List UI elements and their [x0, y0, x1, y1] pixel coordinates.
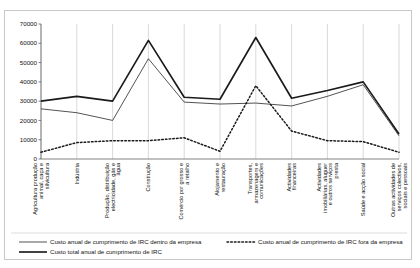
- x-tick-label: restauração: [220, 163, 226, 193]
- x-tick-label-group-3: Construção: [145, 163, 151, 192]
- x-tick-label: água: [115, 162, 121, 175]
- legend-label-0: Custo anual de cumprimento de IRC dentro…: [50, 238, 202, 245]
- x-tick-label: a retalho: [184, 163, 190, 185]
- gridlines: [41, 24, 399, 159]
- x-tick-label-group-0: Agricultura produçãoanimal, caça esilvic…: [32, 162, 49, 215]
- y-tick-label: 10000: [20, 136, 38, 143]
- x-axis-tick-labels: Agricultura produçãoanimal, caça esilvic…: [32, 162, 407, 219]
- chart-card: 010000200003000040000500006000070000 Agr…: [4, 10, 412, 260]
- x-tick-label: Construção: [145, 163, 151, 192]
- y-tick-label: 60000: [20, 39, 38, 46]
- x-tick-label-group-4: Comércio por grosso ea retalho: [178, 163, 190, 220]
- x-tick-label: comunicações: [258, 163, 264, 199]
- y-tick-label: 50000: [20, 59, 38, 66]
- x-tick-label: sociais e pessoais: [402, 163, 408, 209]
- x-tick-label: Saúde e acção social: [360, 163, 366, 216]
- y-tick-label: 70000: [20, 20, 38, 27]
- x-tick-label-group-9: Saúde e acção social: [360, 163, 366, 216]
- x-tick-label: Indústria: [74, 162, 80, 184]
- x-tick-label-group-7: Actividadesfinanceiras: [286, 163, 298, 192]
- y-tick-label: 30000: [20, 97, 38, 104]
- x-tick-label: financeiras: [291, 163, 297, 190]
- legend-label-2: Custo total anual de cumprimento de IRC: [50, 248, 162, 255]
- x-tick-label-group-8: Actividadesimobiliárias, aluguere outros…: [316, 162, 339, 213]
- chart-canvas: 010000200003000040000500006000070000 Agr…: [5, 11, 413, 261]
- x-tick-label-group-6: Transportes,armazenagem ecomunicações: [247, 163, 264, 204]
- x-tick-label-group-2: Produção, distribuiçãoelectricidade, gás…: [104, 162, 121, 218]
- line-chart: 010000200003000040000500006000070000 Agr…: [5, 11, 413, 261]
- y-tick-label: 40000: [20, 78, 38, 85]
- y-tick-label: 0: [34, 155, 38, 162]
- y-axis-tick-labels: 010000200003000040000500006000070000: [20, 20, 41, 162]
- chart-legend: Custo anual de cumprimento de IRC dentro…: [11, 233, 407, 255]
- y-tick-label: 20000: [20, 117, 38, 124]
- x-tick-label-group-5: Alojamento erestauração: [214, 163, 226, 196]
- x-tick-label-group-1: Indústria: [74, 162, 80, 184]
- x-tick-label: silvicultura: [44, 162, 50, 189]
- legend-label-1: Custo anual de cumprimento de IRC fora d…: [258, 238, 403, 245]
- x-tick-label-group-10: Outras actividades deserviços colectivos…: [390, 163, 407, 218]
- x-tick-label: presta: [333, 162, 339, 178]
